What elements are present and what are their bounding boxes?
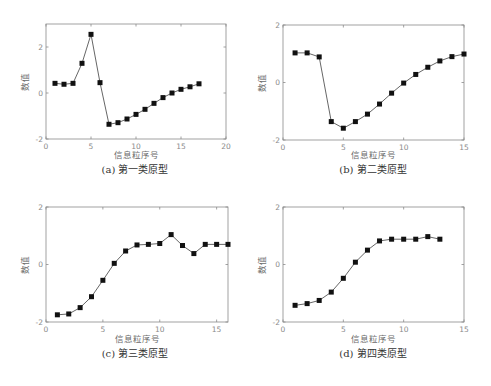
data-point — [143, 107, 148, 112]
data-point — [413, 72, 418, 77]
x-tick-label: 10 — [155, 325, 165, 334]
figure: 05101520-202信息粒序号数值(a) 第一类原型051015-202信息… — [0, 0, 491, 386]
data-point — [425, 65, 430, 70]
y-tick-label: 2 — [38, 203, 43, 212]
data-point — [377, 238, 382, 243]
data-point — [293, 50, 298, 55]
data-point — [437, 58, 442, 63]
x-tick-label: 5 — [341, 143, 346, 152]
data-point — [341, 276, 346, 281]
data-point — [401, 81, 406, 86]
data-point — [226, 242, 231, 247]
data-point — [353, 119, 358, 124]
y-axis-label: 数值 — [20, 73, 30, 91]
data-point — [389, 237, 394, 242]
y-tick-label: 0 — [38, 89, 43, 98]
y-tick-label: -2 — [273, 136, 281, 145]
x-tick-label: 10 — [399, 143, 409, 152]
y-tick-label: 0 — [275, 260, 280, 269]
data-point — [123, 248, 128, 253]
data-point — [169, 232, 174, 237]
x-tick-label: 20 — [221, 142, 231, 151]
data-point — [317, 298, 322, 303]
x-tick-label: 5 — [341, 325, 346, 334]
x-tick-label: 5 — [100, 325, 105, 334]
data-point — [197, 81, 202, 86]
y-tick-label: 2 — [275, 203, 280, 212]
data-point — [170, 91, 175, 96]
subplot-caption: (b) 第二类原型 — [339, 163, 406, 175]
data-point — [365, 112, 370, 117]
x-tick-label: 15 — [176, 142, 186, 151]
series-line — [295, 53, 464, 128]
subplot-caption: (d) 第四类原型 — [339, 347, 406, 359]
y-tick-label: 2 — [38, 43, 43, 52]
data-point — [89, 32, 94, 37]
data-point — [98, 80, 103, 85]
x-axis-label: 信息粒序号 — [351, 150, 396, 160]
data-point — [305, 50, 310, 55]
series-line — [57, 235, 228, 315]
data-point — [78, 305, 83, 310]
data-point — [188, 84, 193, 89]
data-point — [89, 294, 94, 299]
x-tick-label: 0 — [44, 325, 49, 334]
data-point — [53, 81, 58, 86]
x-axis-label: 信息粒序号 — [351, 334, 396, 344]
x-tick-label: 0 — [44, 142, 49, 151]
subplot-caption: (a) 第一类原型 — [102, 163, 169, 175]
data-point — [293, 303, 298, 308]
y-tick-label: 0 — [275, 78, 280, 87]
x-tick-label: 0 — [281, 143, 286, 152]
plot-frame — [46, 207, 228, 322]
data-point — [66, 311, 71, 316]
subplot-a: 05101520-202信息粒序号数值(a) 第一类原型 — [20, 24, 231, 175]
y-axis-label: 数值 — [20, 256, 30, 274]
data-point — [55, 312, 60, 317]
data-point — [413, 237, 418, 242]
y-tick-label: -2 — [273, 318, 281, 327]
x-axis-label: 信息粒序号 — [114, 150, 159, 160]
series-line — [295, 237, 440, 306]
data-point — [305, 301, 310, 306]
x-axis-label: 信息粒序号 — [115, 334, 160, 344]
data-point — [107, 122, 112, 127]
series-line — [55, 34, 199, 124]
data-point — [125, 116, 130, 121]
plot-frame — [283, 25, 464, 140]
data-point — [157, 241, 162, 246]
data-point — [329, 119, 334, 124]
x-tick-label: 10 — [399, 325, 409, 334]
data-point — [191, 251, 196, 256]
plot-frame — [283, 207, 464, 322]
data-point — [161, 95, 166, 100]
y-axis-label: 数值 — [257, 256, 267, 274]
data-point — [365, 248, 370, 253]
x-tick-label: 5 — [89, 142, 94, 151]
data-point — [401, 237, 406, 242]
data-point — [112, 261, 117, 266]
y-tick-label: 0 — [38, 260, 43, 269]
data-point — [317, 54, 322, 59]
data-point — [135, 242, 140, 247]
y-tick-label: 2 — [275, 21, 280, 30]
data-point — [437, 237, 442, 242]
data-point — [152, 101, 157, 106]
data-point — [353, 260, 358, 265]
data-point — [146, 242, 151, 247]
subplot-caption: (c) 第三类原型 — [102, 347, 169, 359]
data-point — [116, 120, 121, 125]
x-tick-label: 15 — [459, 143, 469, 152]
subplot-d: 051015-202信息粒序号数值(d) 第四类原型 — [257, 203, 469, 360]
data-point — [425, 234, 430, 239]
data-point — [203, 242, 208, 247]
data-point — [179, 87, 184, 92]
y-tick-label: -2 — [36, 135, 44, 144]
data-point — [180, 243, 185, 248]
data-point — [462, 52, 467, 57]
subplot-c: 051015-202信息粒序号数值(c) 第三类原型 — [20, 203, 231, 360]
data-point — [341, 126, 346, 131]
data-point — [134, 112, 139, 117]
y-tick-label: -2 — [36, 318, 44, 327]
data-point — [377, 102, 382, 107]
